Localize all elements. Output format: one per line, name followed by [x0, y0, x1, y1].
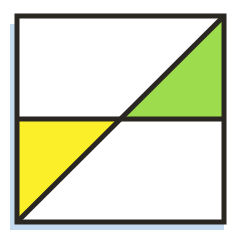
- figure-stage: Square divided by a diagonal and a horiz…: [0, 0, 236, 242]
- square-fraction-diagram: Square divided by a diagonal and a horiz…: [0, 0, 236, 242]
